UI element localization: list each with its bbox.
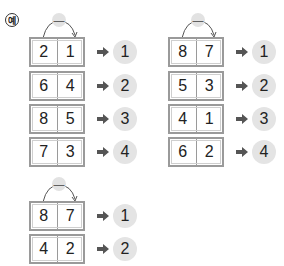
right-number: 1 (196, 106, 223, 132)
result-circle: 2 (113, 237, 137, 261)
example-label: 예 (5, 13, 19, 27)
right-arrow-icon (236, 147, 248, 157)
right-arrow-icon (97, 147, 109, 157)
right-number: 4 (57, 73, 84, 99)
left-number: 6 (31, 73, 57, 99)
right-number: 3 (57, 139, 84, 165)
right-number: 2 (196, 139, 223, 165)
minus-badge: — (191, 13, 205, 27)
problem-row: 6 4 2 (29, 71, 159, 101)
problem-row: 4 2 2 (29, 234, 159, 264)
result-circle: 2 (113, 74, 137, 98)
left-number: 4 (170, 106, 196, 132)
right-number: 2 (57, 236, 84, 262)
number-box: 4 2 (29, 234, 85, 264)
number-box: 8 7 (168, 37, 224, 67)
problem-row: 8 7 1 (168, 37, 284, 67)
number-box: 8 5 (29, 104, 85, 134)
left-number: 2 (31, 39, 57, 65)
number-box: 4 1 (168, 104, 224, 134)
left-number: 8 (31, 106, 57, 132)
left-number: 6 (170, 139, 196, 165)
result-circle: 4 (113, 140, 137, 164)
left-number: 8 (31, 203, 57, 229)
result-circle: 1 (113, 204, 137, 228)
problem-row: 8 5 3 (29, 104, 159, 134)
right-arrow-icon (97, 211, 109, 221)
result-circle: 1 (252, 40, 276, 64)
number-box: 6 4 (29, 71, 85, 101)
problem-row: 6 2 4 (168, 137, 284, 167)
result-circle: 3 (252, 107, 276, 131)
problem-row: 5 3 2 (168, 71, 284, 101)
problem-row: 8 7 1 (29, 201, 159, 231)
operator-indicator: — (39, 13, 79, 39)
result-circle: 1 (113, 40, 137, 64)
problem-row: 2 1 1 (29, 37, 159, 67)
result-circle: 2 (252, 74, 276, 98)
number-box: 5 3 (168, 71, 224, 101)
right-arrow-icon (97, 47, 109, 57)
number-box: 2 1 (29, 37, 85, 67)
result-circle: 4 (252, 140, 276, 164)
minus-badge: — (52, 13, 66, 27)
left-number: 4 (31, 236, 57, 262)
right-arrow-icon (236, 81, 248, 91)
right-number: 1 (57, 39, 84, 65)
minus-badge: — (52, 177, 66, 191)
right-arrow-icon (236, 114, 248, 124)
left-number: 7 (31, 139, 57, 165)
number-box: 7 3 (29, 137, 85, 167)
operator-indicator: — (178, 13, 218, 39)
number-box: 6 2 (168, 137, 224, 167)
operator-indicator: — (39, 177, 79, 203)
right-number: 3 (196, 73, 223, 99)
right-arrow-icon (236, 47, 248, 57)
number-box: 8 7 (29, 201, 85, 231)
right-arrow-icon (97, 114, 109, 124)
left-number: 5 (170, 73, 196, 99)
right-number: 7 (196, 39, 223, 65)
right-number: 5 (57, 106, 84, 132)
right-arrow-icon (97, 244, 109, 254)
problem-row: 4 1 3 (168, 104, 284, 134)
left-number: 8 (170, 39, 196, 65)
result-circle: 3 (113, 107, 137, 131)
right-arrow-icon (97, 81, 109, 91)
right-number: 7 (57, 203, 84, 229)
problem-row: 7 3 4 (29, 137, 159, 167)
